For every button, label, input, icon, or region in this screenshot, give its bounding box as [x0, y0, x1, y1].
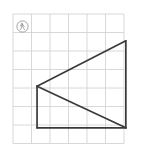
geometry-figure [0, 0, 152, 162]
grid-lines [13, 14, 124, 144]
circular-figure-logo-icon [17, 21, 28, 32]
watermark-figure-glyph [20, 23, 24, 29]
figure-canvas [0, 0, 152, 162]
